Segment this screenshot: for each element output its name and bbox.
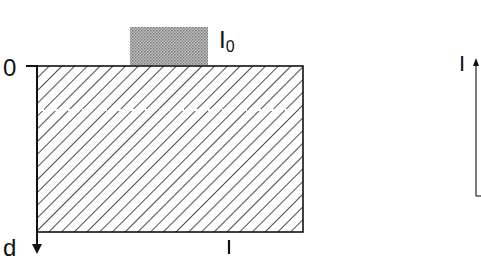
light-source-block [130, 27, 208, 65]
incident-intensity-label: I0 [219, 28, 235, 55]
intensity-axis-label: I [459, 53, 465, 75]
depth-axis-label: d [3, 236, 16, 260]
depth-origin-label: 0 [3, 56, 16, 80]
absorbing-medium [37, 66, 303, 232]
incident-intensity-symbol: I [219, 26, 226, 53]
intensity-axis-arrow-icon [473, 58, 481, 196]
incident-intensity-subscript: 0 [226, 38, 235, 55]
